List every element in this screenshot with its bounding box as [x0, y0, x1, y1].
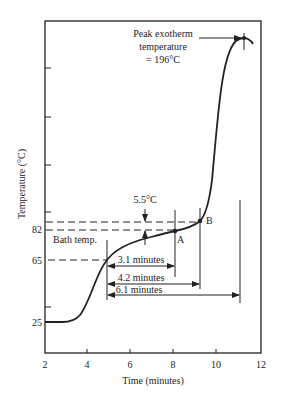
peak-label-line-3: = 196°C — [146, 54, 180, 65]
x-tick-10: 10 — [211, 359, 221, 370]
x-tick-8: 8 — [171, 359, 176, 370]
x-axis-title: Time (minutes) — [122, 375, 184, 387]
x-tick-12: 12 — [256, 359, 266, 370]
y-axis-ticks — [45, 68, 51, 307]
x-tick-6: 6 — [128, 359, 133, 370]
delta-temperature-label: 5.5°C — [133, 194, 156, 205]
bath-temp-label: Bath temp. — [53, 234, 97, 245]
y-tick-65: 65 — [32, 255, 42, 266]
point-b-label: B — [206, 215, 213, 226]
exotherm-chart: 2 4 6 8 10 12 25 65 82 Time (minutes) Te… — [0, 0, 283, 401]
y-tick-25: 25 — [32, 317, 42, 328]
peak-point-marker — [242, 36, 246, 40]
x-tick-labels: 2 4 6 8 10 12 — [43, 359, 267, 370]
interval-4-2-label: 4.2 minutes — [118, 272, 165, 283]
x-tick-2: 2 — [43, 359, 48, 370]
x-tick-4: 4 — [85, 359, 90, 370]
peak-label-line-1: Peak exotherm — [133, 28, 193, 39]
interval-3-1-label: 3.1 minutes — [118, 254, 165, 265]
point-a-marker — [173, 229, 178, 234]
point-b-marker — [198, 219, 203, 224]
plot-frame — [45, 21, 261, 353]
interval-6-1-label: 6.1 minutes — [116, 284, 163, 295]
point-a-label: A — [177, 234, 185, 245]
y-tick-82: 82 — [32, 224, 42, 235]
y-axis-title: Temperature (°C) — [16, 149, 28, 219]
peak-label-line-2: temperature — [139, 41, 187, 52]
